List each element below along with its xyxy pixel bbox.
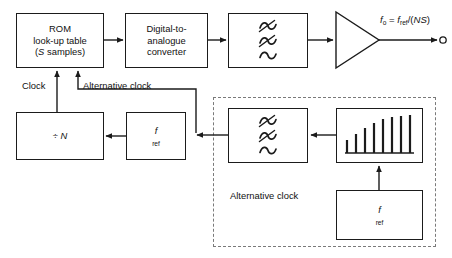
wire-alternative-clock-to-rom — [78, 71, 196, 133]
output-terminal-icon — [440, 37, 446, 43]
wire-layer — [0, 0, 452, 258]
diagram-canvas: ROM look-up table (S samples) Digital-to… — [0, 0, 452, 258]
amplifier-triangle-icon — [336, 12, 379, 68]
